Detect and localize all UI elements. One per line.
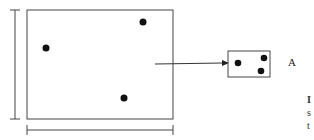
inset-points xyxy=(235,55,268,75)
point xyxy=(258,68,265,75)
point xyxy=(121,95,128,102)
point xyxy=(235,60,242,67)
point xyxy=(140,19,147,26)
diagram-canvas xyxy=(0,0,314,140)
arrow xyxy=(155,60,229,66)
horizontal-dimension-line xyxy=(27,125,173,135)
vertical-dimension-line xyxy=(10,10,20,119)
edge-text-fragment: s xyxy=(307,107,311,118)
edge-text-fragment: I xyxy=(307,94,311,105)
point xyxy=(261,55,268,62)
point xyxy=(43,45,50,52)
inset-label: A xyxy=(288,56,296,68)
main-points xyxy=(43,19,147,102)
main-region-rectangle xyxy=(27,10,173,119)
edge-text-fragment: t xyxy=(307,120,310,131)
